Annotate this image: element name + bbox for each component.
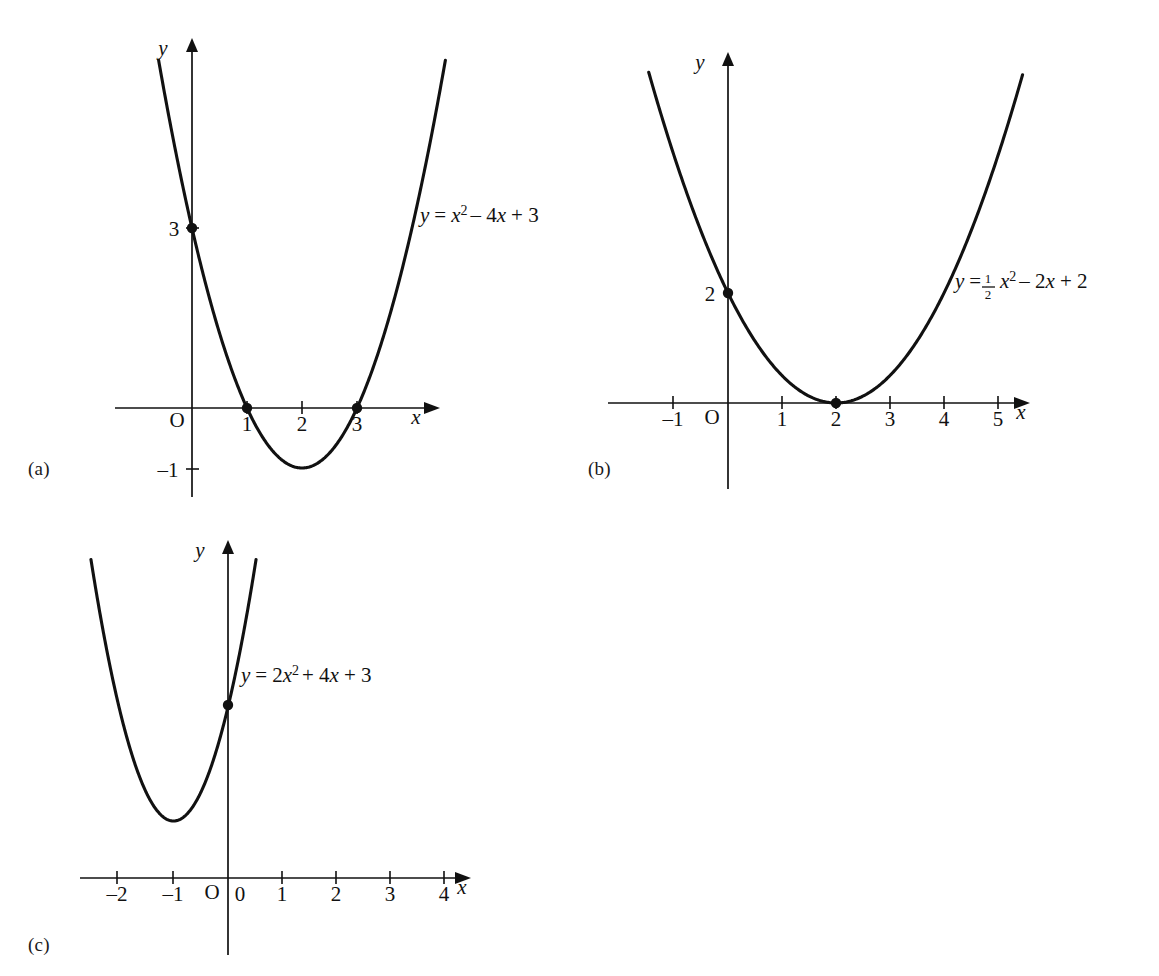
parabola-curve-b — [649, 72, 1023, 403]
y-axis-arrow — [222, 540, 234, 554]
panel-caption-c: (c) — [28, 934, 50, 956]
marked-points-c — [223, 700, 233, 710]
svg-text:x2– 2x+ 2: x2– 2x+ 2 — [999, 269, 1088, 293]
origin-label: O — [169, 408, 184, 432]
origin-label: O — [204, 880, 219, 904]
y-axis-label: y — [693, 50, 705, 74]
figure-panel-b: y x O –1 1 2 3 4 5 2 y= 1 2 x2– 2x+ 2 (b… — [560, 0, 1159, 500]
x-tick-label-1: 1 — [777, 407, 788, 431]
x-tick-label-4: 4 — [939, 407, 950, 431]
eqn-lhs: y — [418, 203, 430, 227]
equation-label-a: y=x2– 4x+ 3 — [418, 203, 539, 227]
x-tick-label-1: 1 — [277, 882, 288, 906]
eqn-var2: x — [329, 663, 340, 687]
svg-text:y=2x2+ 4x+ 3: y=2x2+ 4x+ 3 — [239, 663, 372, 687]
x-axis-arrow — [424, 402, 440, 414]
equation-label-c: y=2x2+ 4x+ 3 — [239, 663, 372, 687]
svg-text:y=x2– 4x+ 3: y=x2– 4x+ 3 — [418, 203, 539, 227]
y-tick-label-2: 2 — [705, 282, 716, 306]
origin-label: O — [704, 405, 719, 429]
parabola-chart-b: y x O –1 1 2 3 4 5 2 y= 1 2 x2– 2x+ 2 — [560, 0, 1159, 500]
x-axis-label: x — [410, 405, 421, 429]
x-tick-label-2: 2 — [831, 407, 842, 431]
eqn-sup1: 2 — [292, 663, 299, 678]
x-tick-label-5: 5 — [993, 407, 1004, 431]
eqn-equals: = — [969, 269, 981, 293]
figure-panel-a: y x O 1 2 3 3 –1 y=x2– 4x+ 3 (a) — [0, 0, 580, 500]
figure-panel-c: y x O –2 –1 0 1 2 3 4 y=2x2+ 4x+ 3 (c) — [0, 500, 580, 976]
eqn-equals: = — [255, 663, 267, 687]
x-tick-label-neg1: –1 — [162, 882, 184, 906]
eqn-coef1: 2 — [272, 663, 283, 687]
parabola-chart-c: y x O –2 –1 0 1 2 3 4 y=2x2+ 4x+ 3 — [0, 500, 580, 976]
x-tick-label-4: 4 — [439, 882, 450, 906]
eqn-term2: + 4 — [302, 663, 330, 687]
panel-caption-a: (a) — [28, 458, 50, 480]
marked-points-b — [723, 288, 841, 408]
y-tick-label-neg1: –1 — [157, 458, 179, 482]
eqn-var2: x — [496, 203, 507, 227]
x-axis-label: x — [1015, 400, 1026, 424]
y-tick-label-3: 3 — [169, 217, 180, 241]
eqn-term2: – 4 — [470, 203, 498, 227]
x-tick-label-3: 3 — [352, 412, 363, 436]
panel-caption-b: (b) — [588, 458, 611, 480]
eqn-lhs: y — [953, 269, 965, 293]
x-tick-label-neg2: –2 — [106, 882, 128, 906]
axes-group-c — [80, 540, 471, 955]
eqn-term3: + 3 — [344, 663, 372, 687]
eqn-var2: x — [1045, 269, 1056, 293]
fraction-denominator: 2 — [985, 287, 992, 302]
fraction-one-half: 1 2 — [982, 271, 995, 302]
y-axis-arrow — [186, 38, 198, 52]
eqn-sup1: 2 — [461, 203, 468, 218]
equation-label-b: y= 1 2 x2– 2x+ 2 — [953, 269, 1088, 302]
eqn-term3: + 2 — [1060, 269, 1088, 293]
x-axis-label: x — [456, 875, 467, 899]
x-tick-label-1: 1 — [242, 412, 253, 436]
fraction-numerator: 1 — [985, 271, 992, 286]
marked-points-a — [187, 223, 362, 413]
x-tick-label-3: 3 — [885, 407, 896, 431]
tick-marks-a — [186, 228, 357, 469]
parabola-chart-a: y x O 1 2 3 3 –1 y=x2– 4x+ 3 — [0, 0, 580, 500]
eqn-term2: – 2 — [1018, 269, 1045, 293]
eqn-lhs: y — [239, 663, 251, 687]
axes-group-a — [115, 38, 440, 497]
y-axis-label: y — [193, 538, 205, 562]
x-tick-label-2: 2 — [331, 882, 342, 906]
y-axis-arrow — [722, 52, 734, 66]
x-tick-label-2: 2 — [297, 412, 308, 436]
y-axis-label: y — [156, 36, 168, 60]
eqn-equals: = — [434, 203, 446, 227]
eqn-term3: + 3 — [511, 203, 539, 227]
x-tick-label-0: 0 — [235, 882, 246, 906]
eqn-sup1: 2 — [1009, 269, 1016, 284]
svg-text:y=: y= — [953, 269, 981, 293]
point-y-intercept — [723, 288, 733, 298]
x-tick-label-3: 3 — [385, 882, 396, 906]
point-y-intercept — [187, 223, 197, 233]
point-y-intercept — [223, 700, 233, 710]
parabola-curve-c — [91, 559, 256, 821]
x-tick-label-neg1: –1 — [662, 407, 684, 431]
